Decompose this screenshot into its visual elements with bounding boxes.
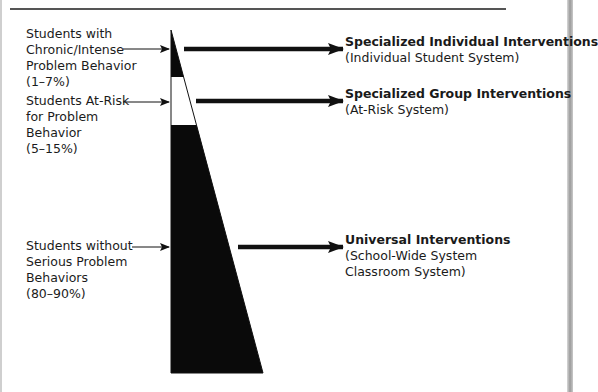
group-range: (5–15%)	[26, 141, 129, 157]
triangle	[171, 30, 263, 373]
group-label-chronic: Students with Chronic/Intense Problem Be…	[26, 26, 137, 90]
group-label-universal: Students without Serious Problem Behavio…	[26, 238, 133, 302]
tier-band-at-risk	[171, 77, 197, 125]
group-range: (80–90%)	[26, 286, 133, 302]
label-line: Behaviors	[26, 270, 133, 286]
label-line: Students without	[26, 238, 133, 254]
intervention-title: Specialized Individual Interventions	[345, 34, 598, 50]
intervention-title: Universal Interventions	[345, 232, 511, 248]
label-line: Problem Behavior	[26, 58, 137, 74]
intervention-subtitle: (At-Risk System)	[345, 102, 571, 118]
label-line: Students At-Risk	[26, 93, 129, 109]
label-line: Behavior	[26, 125, 129, 141]
intervention-subtitle: Classroom System)	[345, 264, 511, 280]
group-label-at-risk: Students At-Risk for Problem Behavior (5…	[26, 93, 129, 157]
label-line: Chronic/Intense	[26, 42, 137, 58]
intervention-subtitle: (School-Wide System	[345, 248, 511, 264]
label-line: for Problem	[26, 109, 129, 125]
label-line: Serious Problem	[26, 254, 133, 270]
label-line: Students with	[26, 26, 137, 42]
intervention-universal: Universal Interventions (School-Wide Sys…	[345, 232, 511, 280]
intervention-group: Specialized Group Interventions (At-Risk…	[345, 86, 571, 118]
group-range: (1–7%)	[26, 74, 137, 90]
intervention-individual: Specialized Individual Interventions (In…	[345, 34, 598, 66]
intervention-subtitle: (Individual Student System)	[345, 50, 598, 66]
intervention-title: Specialized Group Interventions	[345, 86, 571, 102]
